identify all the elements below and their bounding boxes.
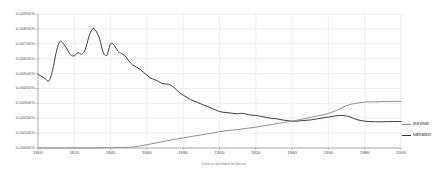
x-tick-label: 1920 [251, 151, 261, 155]
x-tick-label: 1900 [215, 151, 225, 155]
chart-caption: (click on line/label for focus) [0, 163, 447, 167]
plot-area [38, 14, 401, 148]
y-tick-label: 0.00000% [16, 146, 35, 150]
horizontal-gridlines [36, 14, 401, 148]
y-tick-label: 0.00900% [16, 12, 35, 16]
y-tick-label: 0.00800% [16, 27, 35, 31]
legend-item-survival[interactable]: survival [402, 122, 429, 127]
y-tick-label: 0.00400% [16, 86, 35, 90]
x-tick-label: 2000 [396, 151, 406, 155]
ngram-chart: 0.00900%0.00800%0.00700%0.00600%0.00500%… [0, 0, 447, 175]
legend-label-survival: survival [413, 122, 429, 127]
x-tick-label: 1820 [69, 151, 79, 155]
x-axis: 1800182018401860188019001920194019601980… [38, 151, 401, 159]
legend-swatch-survival [402, 124, 411, 125]
x-tick-label: 1860 [142, 151, 152, 155]
y-axis: 0.00900%0.00800%0.00700%0.00600%0.00500%… [0, 14, 35, 148]
x-tick-label: 1880 [178, 151, 188, 155]
y-tick-label: 0.00300% [16, 101, 35, 105]
x-tick-label: 1940 [287, 151, 297, 155]
x-tick-label: 1980 [360, 151, 370, 155]
y-tick-label: 0.00600% [16, 57, 35, 61]
plot-svg [38, 14, 401, 148]
y-tick-label: 0.00700% [16, 42, 35, 46]
legend-swatch-salvation [402, 135, 411, 136]
vertical-gridlines [38, 14, 401, 150]
y-tick-label: 0.00100% [16, 131, 35, 135]
y-tick-label: 0.00200% [16, 116, 35, 120]
legend-item-salvation[interactable]: salvation [402, 133, 431, 138]
y-tick-label: 0.00500% [16, 71, 35, 75]
x-tick-label: 1800 [33, 151, 43, 155]
x-tick-label: 1960 [324, 151, 334, 155]
legend-label-salvation: salvation [413, 133, 431, 138]
x-tick-label: 1840 [106, 151, 116, 155]
